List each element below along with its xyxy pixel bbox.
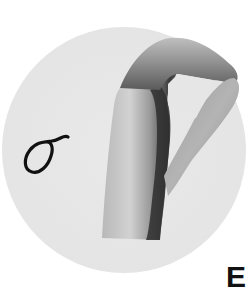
cut-off-heading-text: E [226,262,246,291]
